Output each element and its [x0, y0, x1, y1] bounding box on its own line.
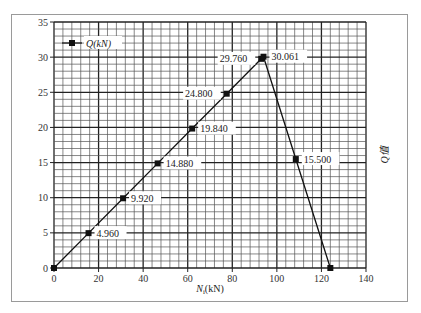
- y-tick-label: 20: [38, 122, 48, 133]
- square-marker-icon: [51, 265, 57, 271]
- x-tick-label: 120: [314, 273, 329, 284]
- y-tick-label: 30: [38, 52, 48, 63]
- y-tick-label: 0: [43, 263, 48, 274]
- legend: Q(kN): [62, 36, 122, 50]
- data-label: 30.061: [271, 51, 299, 62]
- data-label: 14.880: [166, 158, 194, 169]
- line-chart: 02040608010012014005101520253035 4.9609.…: [0, 0, 421, 313]
- square-marker-icon: [224, 91, 230, 97]
- x-tick-label: 0: [52, 273, 57, 284]
- data-label: 19.840: [200, 123, 228, 134]
- square-marker-icon: [260, 54, 266, 60]
- x-axis-label: Ni(kN): [195, 283, 224, 296]
- y-tick-label: 25: [38, 87, 48, 98]
- y-tick-label: 5: [43, 227, 48, 238]
- x-tick-label: 40: [138, 273, 148, 284]
- square-marker-icon: [120, 195, 126, 201]
- data-label: 15.500: [304, 154, 332, 165]
- data-label: 9.920: [131, 193, 154, 204]
- x-tick-label: 100: [269, 273, 284, 284]
- y-tick-label: 10: [38, 192, 48, 203]
- x-tick-label: 140: [359, 273, 374, 284]
- legend-marker-icon: [69, 40, 75, 46]
- x-tick-label: 20: [94, 273, 104, 284]
- data-label: 4.960: [97, 228, 120, 239]
- y-tick-label: 15: [38, 157, 48, 168]
- square-marker-icon: [86, 230, 92, 236]
- x-tick-label: 80: [227, 273, 237, 284]
- square-marker-icon: [327, 265, 333, 271]
- square-marker-icon: [189, 126, 195, 132]
- square-marker-icon: [155, 160, 161, 166]
- square-marker-icon: [293, 156, 299, 162]
- data-label: 29.760: [220, 53, 248, 64]
- data-label: 24.800: [185, 88, 213, 99]
- y-axis-label-right: Q值: [379, 144, 390, 163]
- x-tick-label: 60: [183, 273, 193, 284]
- y-tick-label: 35: [38, 17, 48, 28]
- legend-label: Q(kN): [86, 38, 112, 50]
